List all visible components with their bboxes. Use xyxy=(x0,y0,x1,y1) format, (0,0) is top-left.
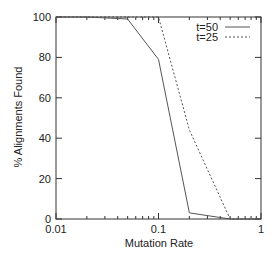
legend-label: t=25 xyxy=(196,31,218,43)
y-axis-ticks: 020406080100 xyxy=(33,11,261,225)
plot-area-border xyxy=(56,17,261,219)
y-tick-label: 100 xyxy=(33,11,51,23)
y-tick-label: 60 xyxy=(39,92,51,104)
line-chart: 0.010.11 020406080100 t=50t=25 Mutation … xyxy=(0,0,277,261)
legend: t=50t=25 xyxy=(196,21,250,43)
series-line-t-50 xyxy=(56,17,261,219)
y-tick-label: 40 xyxy=(39,132,51,144)
y-tick-label: 80 xyxy=(39,51,51,63)
y-axis-title: % Alignments Found xyxy=(12,67,24,168)
x-axis-ticks: 0.010.11 xyxy=(45,17,264,235)
x-tick-label: 0.1 xyxy=(151,223,166,235)
data-series xyxy=(56,17,261,219)
series-line-t-25 xyxy=(56,17,261,219)
y-tick-label: 20 xyxy=(39,173,51,185)
x-axis-title: Mutation Rate xyxy=(125,237,193,249)
x-tick-label: 1 xyxy=(258,223,264,235)
y-tick-label: 0 xyxy=(45,213,51,225)
plot-frame xyxy=(56,17,261,219)
